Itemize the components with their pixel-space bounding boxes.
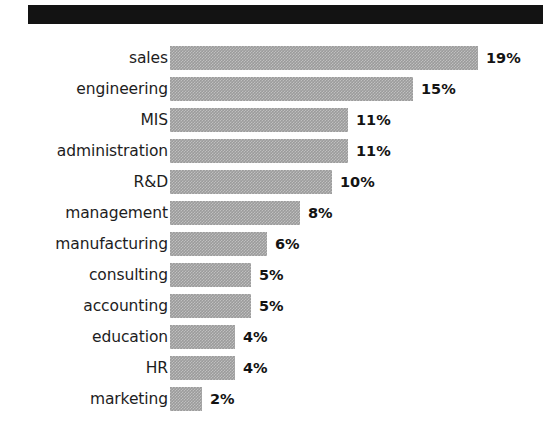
bar-fill [170,263,251,287]
bar-track: 11% [170,139,548,163]
bar-fill [170,387,202,411]
category-label: HR [0,356,168,380]
bar-row: administration11% [0,139,548,163]
category-label: education [0,325,168,349]
category-label: MIS [0,108,168,132]
category-label: accounting [0,294,168,318]
plot-area: sales19%engineering15%MIS11%administrati… [0,46,548,418]
bar-fill [170,356,235,380]
bar-fill [170,77,413,101]
category-label: R&D [0,170,168,194]
bar-row: sales19% [0,46,548,70]
bar-fill [170,232,267,256]
bar-value-label: 11% [356,139,391,163]
bar-value-label: 11% [356,108,391,132]
bar-track: 8% [170,201,548,225]
bar-value-label: 5% [259,263,284,287]
bar-track: 19% [170,46,548,70]
bar-value-label: 2% [210,387,235,411]
bar-row: R&D10% [0,170,548,194]
bar-track: 5% [170,294,548,318]
bar-row: consulting5% [0,263,548,287]
bar-track: 10% [170,170,548,194]
header-rule [28,5,543,24]
category-label: management [0,201,168,225]
bar-row: management8% [0,201,548,225]
bar-track: 4% [170,325,548,349]
bar-row: HR4% [0,356,548,380]
bar-row: MIS11% [0,108,548,132]
bar-fill [170,294,251,318]
bar-value-label: 10% [340,170,375,194]
bar-track: 2% [170,387,548,411]
bar-row: education4% [0,325,548,349]
category-label: marketing [0,387,168,411]
category-label: consulting [0,263,168,287]
category-label: sales [0,46,168,70]
bar-fill [170,201,300,225]
bar-value-label: 4% [243,356,268,380]
bar-track: 15% [170,77,548,101]
bar-fill [170,108,348,132]
bar-value-label: 8% [308,201,333,225]
bar-track: 6% [170,232,548,256]
category-label: engineering [0,77,168,101]
bar-row: engineering15% [0,77,548,101]
category-label: administration [0,139,168,163]
bar-value-label: 6% [275,232,300,256]
bar-row: marketing2% [0,387,548,411]
bar-track: 5% [170,263,548,287]
horizontal-bar-chart: sales19%engineering15%MIS11%administrati… [0,0,548,429]
bar-value-label: 15% [421,77,456,101]
bar-fill [170,46,478,70]
bar-track: 11% [170,108,548,132]
category-label: manufacturing [0,232,168,256]
bar-track: 4% [170,356,548,380]
bar-row: accounting5% [0,294,548,318]
bar-row: manufacturing6% [0,232,548,256]
bar-value-label: 19% [486,46,521,70]
bar-fill [170,325,235,349]
bar-value-label: 4% [243,325,268,349]
bar-value-label: 5% [259,294,284,318]
bar-fill [170,139,348,163]
bar-fill [170,170,332,194]
